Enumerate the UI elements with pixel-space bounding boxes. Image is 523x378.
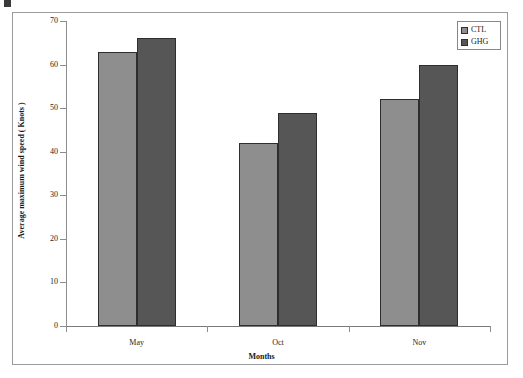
- chart-legend: CTLGHG: [457, 21, 501, 50]
- bar-oct-ctl: [239, 143, 278, 326]
- x-axis-title: Months: [0, 352, 523, 361]
- bar-nov-ctl: [380, 99, 419, 326]
- legend-item-ctl: CTL: [461, 24, 500, 36]
- y-axis-tick-label: 0: [12, 322, 58, 330]
- x-axis-tick: [349, 326, 350, 332]
- x-axis-tick: [490, 326, 491, 332]
- legend-swatch-ghg: [461, 39, 468, 46]
- legend-item-ghg: GHG: [461, 36, 500, 48]
- x-axis-label-may: May: [129, 338, 144, 347]
- x-axis-line: [66, 326, 491, 327]
- x-axis-label-nov: Nov: [412, 338, 426, 347]
- legend-label-ghg: GHG: [471, 38, 488, 46]
- plot-area: [66, 21, 490, 326]
- bar-nov-ghg: [419, 65, 458, 326]
- bar-oct-ghg: [278, 113, 317, 327]
- legend-swatch-ctl: [461, 27, 468, 34]
- x-axis-label-oct: Oct: [272, 338, 284, 347]
- bar-may-ghg: [137, 38, 176, 326]
- y-axis-tick-label: 60: [12, 61, 58, 69]
- legend-label-ctl: CTL: [471, 26, 486, 34]
- x-axis-tick: [207, 326, 208, 332]
- x-axis-tick: [66, 326, 67, 332]
- y-axis-tick-label: 70: [12, 17, 58, 25]
- y-axis-tick-label: 10: [12, 278, 58, 286]
- bar-may-ctl: [98, 52, 137, 327]
- y-axis-title: Average maximum wind speed ( Knots ): [17, 71, 26, 271]
